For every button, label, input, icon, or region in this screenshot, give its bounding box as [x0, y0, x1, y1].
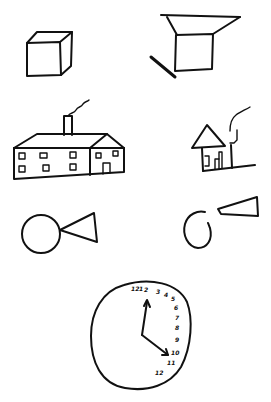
- copied-cube: [151, 15, 240, 77]
- copied-circle-triangle: [184, 197, 258, 248]
- svg-text:12: 12: [155, 369, 163, 376]
- model-circle-triangle: [22, 213, 97, 253]
- svg-text:8: 8: [175, 324, 179, 331]
- svg-text:2: 2: [144, 286, 148, 293]
- svg-text:5: 5: [171, 295, 175, 302]
- svg-text:6: 6: [174, 304, 178, 311]
- svg-text:1: 1: [139, 285, 143, 292]
- drawing-sheet: 12 1 2 3 4 5 6 7 8 9 10 11 12: [0, 0, 271, 402]
- svg-text:3: 3: [156, 288, 160, 295]
- clock-numbers: 12 1 2 3 4 5 6 7 8 9 10 11 12: [131, 285, 180, 376]
- svg-text:4: 4: [164, 291, 168, 298]
- clock-minute-hand: [142, 335, 168, 355]
- copied-house: [192, 107, 255, 171]
- svg-text:7: 7: [175, 314, 180, 321]
- model-house: [14, 100, 124, 179]
- svg-text:9: 9: [175, 336, 179, 343]
- clock-drawing: 12 1 2 3 4 5 6 7 8 9 10 11 12: [91, 282, 191, 390]
- svg-text:10: 10: [171, 349, 179, 356]
- model-cube: [27, 32, 72, 76]
- svg-text:11: 11: [167, 359, 175, 366]
- clock-hour-hand: [142, 302, 147, 335]
